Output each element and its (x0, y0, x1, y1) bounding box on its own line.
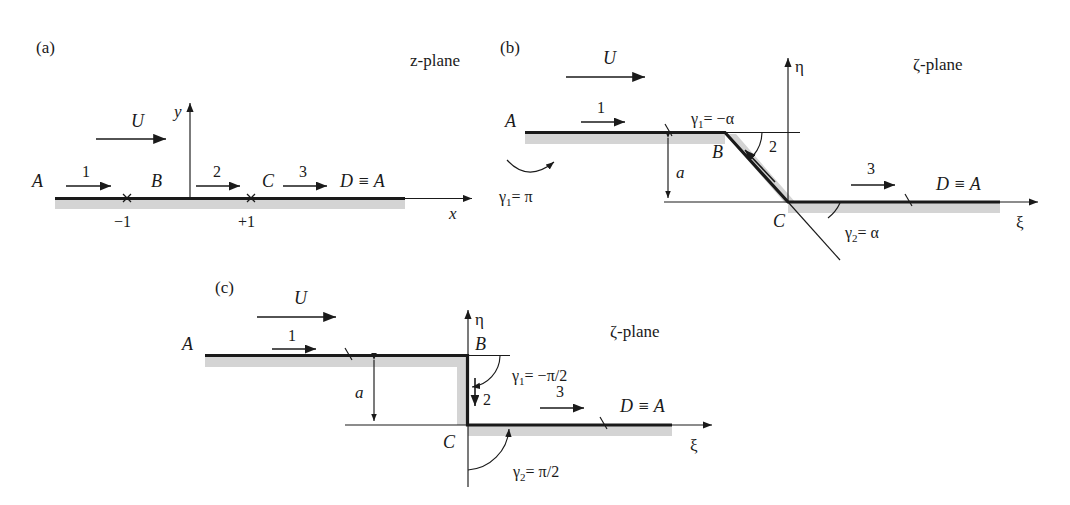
panel-b: (b) ζ-plane η ξ U A (498, 38, 1038, 260)
panel-b-segment-2-label: 2 (769, 138, 777, 155)
panel-a-tag: (a) (36, 38, 55, 57)
svg-text:γ2= α: γ2= α (844, 224, 880, 244)
panel-a-tick-label-minus-1: −1 (114, 213, 131, 230)
panel-b-tag: (b) (500, 38, 520, 57)
panel-a-segment-1-label: 1 (82, 163, 90, 180)
panel-b-angle1-eq: = −α (704, 110, 735, 127)
panel-a-point-d: D ≡ A (339, 171, 386, 191)
figure-root: (a) z-plane x y U −1 (0, 0, 1070, 505)
panel-b-segment-1-label: 1 (597, 99, 605, 116)
panel-b-shading-upper (525, 134, 725, 144)
panel-b-angle1-arc (753, 133, 762, 157)
panel-c-eta-axis-label: η (475, 310, 484, 329)
panel-a-plane-label: z-plane (410, 51, 460, 70)
panel-c-angle1-symbol: γ (511, 367, 519, 385)
panel-a-point-c: C (262, 171, 275, 191)
panel-c-xi-axis-label: ξ (690, 436, 698, 455)
panel-c-segment-1-label: 1 (288, 327, 296, 344)
panel-b-point-d: D ≡ A (935, 174, 982, 194)
schwarz-christoffel-mapping-figure: (a) z-plane x y U −1 (0, 0, 1070, 505)
panel-a-shading (55, 200, 405, 209)
panel-c-plane-label: ζ-plane (610, 322, 660, 341)
panel-c-segment-2-label: 2 (483, 391, 491, 408)
panel-b-point-c: C (773, 211, 786, 231)
panel-a-flow-label: U (131, 111, 145, 131)
panel-c-point-c: C (443, 432, 456, 452)
panel-a-tick-label-plus-1: +1 (238, 213, 255, 230)
panel-a: (a) z-plane x y U −1 (31, 38, 472, 230)
panel-b-point-b: B (712, 142, 723, 162)
panel-c-point-a: A (181, 334, 194, 354)
panel-c-angle2-eq: = π/2 (526, 463, 560, 480)
panel-c-angle2-symbol: γ (512, 463, 520, 481)
panel-c-shading-lower (468, 426, 672, 436)
panel-b-eta-axis-label: η (795, 57, 804, 76)
panel-b-angle3-curved-arrow (507, 160, 554, 172)
panel-c-angle1-eq: = −π/2 (525, 367, 568, 384)
panel-b-dimension-label: a (676, 163, 685, 182)
panel-b-xi-axis-label: ξ (1016, 213, 1024, 232)
panel-b-angle1-symbol: γ (690, 110, 698, 128)
svg-text:γ1= π: γ1= π (498, 188, 533, 208)
panel-c-dimension-label: a (355, 383, 364, 402)
panel-a-x-axis-label: x (448, 204, 457, 223)
panel-b-point-a: A (504, 111, 517, 131)
panel-c-point-b: B (475, 334, 486, 354)
panel-b-angle2-label: γ2= α (844, 224, 880, 244)
panel-c-point-d: D ≡ A (619, 396, 666, 416)
panel-a-point-a: A (31, 171, 44, 191)
panel-c-shading-upper (205, 357, 467, 367)
panel-c-angle1-arc (472, 356, 500, 387)
panel-c: (c) ζ-plane η ξ U (181, 278, 712, 487)
svg-text:γ2= π/2: γ2= π/2 (512, 463, 559, 483)
panel-a-y-axis-label: y (172, 102, 182, 121)
panel-b-angle3-symbol: γ (498, 188, 506, 206)
panel-b-angle3-label: γ1= π (498, 188, 533, 208)
panel-c-segment-3-label: 3 (556, 383, 564, 400)
panel-b-plane-label: ζ-plane (913, 55, 963, 74)
panel-c-tag: (c) (215, 278, 234, 297)
panel-c-angle2-label: γ2= π/2 (512, 463, 559, 483)
panel-b-angle1-label: γ1= −α (690, 110, 735, 130)
panel-b-angle2-symbol: γ (844, 224, 852, 242)
panel-a-segment-3-label: 3 (299, 163, 307, 180)
svg-text:γ1= −α: γ1= −α (690, 110, 735, 130)
panel-b-segment-3-label: 3 (867, 160, 875, 177)
panel-b-angle3-eq: = π (512, 188, 533, 205)
panel-b-shading-lower (788, 203, 1000, 213)
panel-b-flow-label: U (603, 48, 617, 68)
panel-a-segment-2-label: 2 (213, 163, 221, 180)
panel-a-point-b: B (151, 171, 162, 191)
panel-c-flow-label: U (294, 288, 308, 308)
panel-b-angle2-eq: = α (858, 224, 880, 241)
